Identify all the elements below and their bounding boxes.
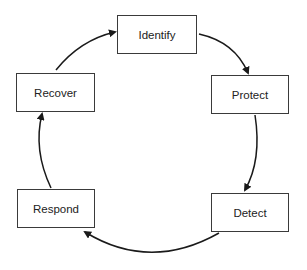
node-protect: Protect: [211, 75, 289, 114]
node-respond: Respond: [17, 189, 95, 228]
arrow-protect-to-detect: [245, 115, 257, 190]
arrow-respond-to-recover: [39, 114, 51, 188]
node-recover: Recover: [16, 73, 95, 112]
node-detect: Detect: [211, 193, 289, 232]
node-label: Recover: [34, 87, 77, 99]
arrow-recover-to-identify: [56, 32, 115, 70]
arrow-detect-to-respond: [85, 232, 219, 252]
arrow-identify-to-protect: [199, 34, 248, 73]
node-label: Identify: [138, 29, 175, 41]
node-label: Protect: [232, 89, 268, 101]
node-label: Detect: [233, 207, 266, 219]
node-identify: Identify: [117, 15, 197, 54]
node-label: Respond: [33, 203, 79, 215]
